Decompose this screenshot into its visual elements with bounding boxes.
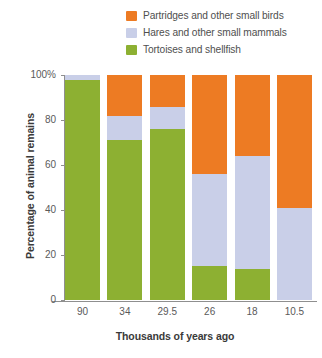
bar-segment <box>150 75 185 107</box>
legend-label-partridges: Partridges and other small birds <box>143 10 284 21</box>
x-tick-label: 10.5 <box>277 306 312 317</box>
x-axis-title: Thousands of years ago <box>0 330 322 342</box>
bar-segment <box>235 75 270 156</box>
y-axis-ticks: 020406080100% <box>0 75 65 300</box>
bar-segment <box>277 208 312 300</box>
legend-swatch-tortoises <box>126 45 137 55</box>
y-tick-label: 80 <box>45 115 61 125</box>
bar-segment <box>192 266 227 300</box>
legend-label-hares: Hares and other small mammals <box>143 27 287 38</box>
bar-segment <box>107 116 142 141</box>
bar-group <box>65 75 312 300</box>
stacked-bar-chart: Partridges and other small birds Hares a… <box>0 0 322 358</box>
legend-item-tortoises: Tortoises and shellfish <box>126 43 287 56</box>
y-tick-label: 20 <box>45 250 61 260</box>
chart-legend: Partridges and other small birds Hares a… <box>126 9 287 56</box>
bar-stack <box>192 75 227 300</box>
x-tick-label: 26 <box>192 306 227 317</box>
bar-segment <box>65 80 100 301</box>
x-tick-label: 90 <box>65 306 100 317</box>
bar-segment <box>277 75 312 208</box>
y-tick-label: 100% <box>30 70 61 80</box>
legend-label-tortoises: Tortoises and shellfish <box>143 44 241 55</box>
x-axis-line <box>52 301 317 302</box>
y-tick-label: 40 <box>45 205 61 215</box>
bar-stack <box>277 75 312 300</box>
bar-segment <box>107 75 142 116</box>
bar-segment <box>235 269 270 301</box>
x-tick-label: 34 <box>107 306 142 317</box>
x-tick-label: 29.5 <box>150 306 185 317</box>
legend-item-partridges: Partridges and other small birds <box>126 9 287 22</box>
x-axis-ticks: 903429.5261810.5 <box>65 306 312 317</box>
bar-segment <box>192 174 227 266</box>
bar-segment <box>150 107 185 130</box>
legend-swatch-hares <box>126 28 137 38</box>
bar-segment <box>235 156 270 269</box>
legend-item-hares: Hares and other small mammals <box>126 26 287 39</box>
y-tick-label: 60 <box>45 160 61 170</box>
x-tick-label: 18 <box>235 306 270 317</box>
bar-stack <box>107 75 142 300</box>
y-tick-label: 0 <box>50 295 61 305</box>
bar-stack <box>150 75 185 300</box>
bar-segment <box>150 129 185 300</box>
bar-segment <box>107 140 142 300</box>
bar-stack <box>235 75 270 300</box>
bar-segment <box>192 75 227 174</box>
plot-area <box>65 75 312 300</box>
bar-stack <box>65 75 100 300</box>
legend-swatch-partridges <box>126 11 137 21</box>
